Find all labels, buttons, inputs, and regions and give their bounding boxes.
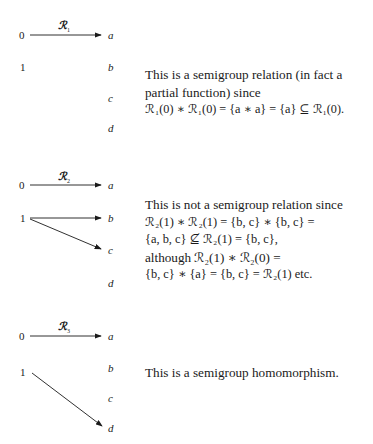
text-line: This is a semigroup relation (in fact a bbox=[145, 66, 344, 84]
codomain-node-a: a bbox=[108, 180, 114, 191]
codomain-node-d: d bbox=[108, 123, 114, 134]
domain-node-0: 0 bbox=[19, 30, 25, 41]
text-line: {b, c} ∗ {a} = {b, c} = ℛ₂(1) etc. bbox=[145, 266, 343, 284]
panel-3-explanation: This is a semigroup homomorphism. bbox=[145, 364, 339, 382]
codomain-node-b: b bbox=[108, 213, 114, 224]
codomain-node-c: c bbox=[108, 93, 113, 104]
relation-symbol: ℛ bbox=[58, 320, 67, 332]
text-line: ℛ₂(1) ∗ ℛ₂(1) = {b, c} ∗ {b, c} = bbox=[145, 214, 343, 232]
codomain-node-a: a bbox=[108, 30, 114, 41]
text-line: {a, b, c} ⊈ ℛ₂(1) = {b, c}, bbox=[145, 231, 343, 249]
relation-symbol: ℛ bbox=[58, 170, 67, 182]
domain-node-0: 0 bbox=[19, 331, 25, 342]
domain-node-1: 1 bbox=[20, 367, 26, 378]
relation-index: 2 bbox=[67, 178, 70, 184]
panel-2-explanation: This is not a semigroup relation since ℛ… bbox=[145, 196, 343, 284]
codomain-node-b: b bbox=[108, 62, 114, 73]
relation-label-r2: ℛ2 bbox=[58, 171, 70, 184]
panel-1-explanation: This is a semigroup relation (in fact a … bbox=[145, 66, 344, 119]
text-line: This is not a semigroup relation since bbox=[145, 196, 343, 214]
text-line: partial function) since bbox=[145, 84, 344, 102]
domain-node-0: 0 bbox=[19, 180, 25, 191]
codomain-node-b: b bbox=[108, 363, 114, 374]
codomain-node-c: c bbox=[108, 393, 113, 404]
relation-label-r3: ℛ3 bbox=[58, 321, 70, 334]
relation-label-r1: ℛ1 bbox=[58, 20, 70, 33]
codomain-node-d: d bbox=[108, 423, 114, 434]
arrow-1-to-d bbox=[32, 373, 102, 426]
codomain-node-c: c bbox=[108, 245, 113, 256]
text-line: although ℛ₂(1) ∗ ℛ₂(0) = bbox=[145, 249, 343, 267]
relation-symbol: ℛ bbox=[58, 19, 67, 31]
relation-index: 1 bbox=[67, 27, 70, 33]
text-line: ℛ₁(0) ∗ ℛ₁(0) = {a ∗ a} = {a} ⊆ ℛ₁(0). bbox=[145, 101, 344, 119]
relation-index: 3 bbox=[67, 328, 70, 334]
arrow-1-to-c bbox=[30, 219, 101, 249]
codomain-node-d: d bbox=[108, 278, 114, 289]
text-line: This is a semigroup homomorphism. bbox=[145, 364, 339, 382]
codomain-node-a: a bbox=[108, 331, 114, 342]
domain-node-1: 1 bbox=[20, 213, 26, 224]
domain-node-1: 1 bbox=[20, 62, 26, 73]
